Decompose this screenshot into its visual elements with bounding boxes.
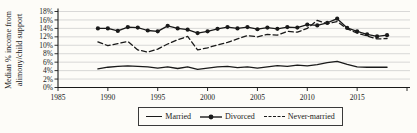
x-tick-label: 1985 xyxy=(51,93,66,102)
series-marker-divorced xyxy=(255,27,259,31)
x-tick-label: 2000 xyxy=(200,93,215,102)
y-axis-title-line2: alimony/child support xyxy=(15,4,26,96)
series-marker-divorced xyxy=(215,27,219,31)
y-axis-title: Median % income from alimony/child suppo… xyxy=(4,4,26,96)
series-line-divorced xyxy=(98,19,387,37)
series-marker-divorced xyxy=(385,33,389,37)
series-marker-divorced xyxy=(375,34,379,38)
series-marker-divorced xyxy=(196,31,200,35)
series-marker-divorced xyxy=(285,25,289,29)
series-marker-divorced xyxy=(126,25,130,29)
series-line-married xyxy=(98,61,387,69)
series-marker-divorced xyxy=(156,29,160,33)
line-with-dot-icon xyxy=(200,113,222,121)
legend-item-never-married: Never-married xyxy=(264,112,335,121)
legend-label-married: Married xyxy=(165,112,191,121)
dashed-line-icon xyxy=(264,116,285,117)
x-tick-label: 1995 xyxy=(150,93,165,102)
y-tick-label: 16% xyxy=(39,16,53,25)
series-marker-divorced xyxy=(146,28,150,32)
y-tick-label: 14% xyxy=(39,24,53,33)
y-tick-label: 12% xyxy=(39,32,53,41)
series-marker-divorced xyxy=(136,25,140,29)
x-tick-label: 2010 xyxy=(300,93,315,102)
series-marker-divorced xyxy=(275,27,279,31)
series-marker-divorced xyxy=(106,26,110,30)
series-marker-divorced xyxy=(315,23,319,27)
legend-label-never-married: Never-married xyxy=(288,112,335,121)
chart-figure: 0%2%4%6%8%10%12%14%16%18%198519901995200… xyxy=(0,0,417,133)
y-tick-label: 18% xyxy=(39,7,53,16)
series-marker-divorced xyxy=(335,17,339,21)
y-axis-title-line1: Median % income from xyxy=(4,4,15,96)
legend-item-married: Married xyxy=(146,112,191,121)
x-tick-label: 2015 xyxy=(350,93,365,102)
series-marker-divorced xyxy=(245,25,249,29)
y-tick-label: 4% xyxy=(43,66,53,75)
y-tick-label: 2% xyxy=(43,75,53,84)
solid-line-icon xyxy=(146,116,162,117)
series-marker-divorced xyxy=(186,28,190,32)
series-marker-divorced xyxy=(116,29,120,33)
x-tick-label: 1990 xyxy=(100,93,115,102)
legend-item-divorced: Divorced xyxy=(200,112,255,121)
x-tick-label: 2005 xyxy=(250,93,265,102)
series-marker-divorced xyxy=(265,25,269,29)
legend-label-divorced: Divorced xyxy=(225,112,255,121)
chart-legend: Married Divorced Never-married xyxy=(138,107,343,126)
series-marker-divorced xyxy=(176,26,180,30)
series-marker-divorced xyxy=(235,26,239,30)
y-tick-label: 10% xyxy=(39,41,53,50)
y-tick-label: 0% xyxy=(43,83,53,92)
series-marker-divorced xyxy=(305,22,309,26)
series-marker-divorced xyxy=(225,25,229,29)
series-marker-divorced xyxy=(166,24,170,28)
series-marker-divorced xyxy=(96,26,100,30)
y-tick-label: 6% xyxy=(43,58,53,67)
series-marker-divorced xyxy=(295,25,299,29)
series-marker-divorced xyxy=(205,29,209,33)
y-tick-label: 8% xyxy=(43,49,53,58)
